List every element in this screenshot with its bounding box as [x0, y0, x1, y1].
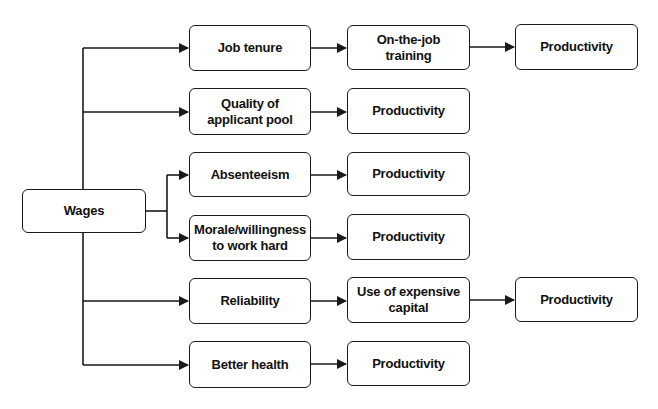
node-productivity-1: Productivity	[515, 24, 638, 70]
node-quality-of-applicant-pool: Quality of applicant pool	[189, 88, 311, 135]
node-use-of-expensive-capital: Use of expensive capital	[347, 277, 470, 323]
node-wages: Wages	[22, 189, 146, 233]
node-reliability: Reliability	[189, 278, 311, 324]
node-productivity-2: Productivity	[347, 88, 470, 134]
node-job-tenure: Job tenure	[189, 25, 311, 71]
node-on-the-job-training: On-the-job training	[347, 25, 470, 70]
node-productivity-6: Productivity	[347, 341, 470, 386]
node-better-health: Better health	[189, 341, 311, 388]
node-absenteeism: Absenteeism	[189, 152, 311, 197]
node-morale-willingness: Morale/willingness to work hard	[189, 215, 311, 261]
node-productivity-4: Productivity	[347, 214, 470, 260]
node-productivity-3: Productivity	[347, 152, 470, 196]
node-productivity-5: Productivity	[515, 277, 638, 322]
